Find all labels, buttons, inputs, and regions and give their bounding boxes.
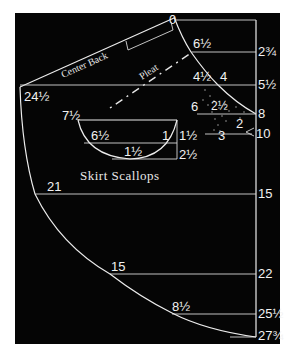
scallop-1-1-2-right: 1½ <box>179 128 197 143</box>
skirt-pattern-diagram: Center Back Pleat Skirt Scallops 0 2¾ 5½… <box>0 0 293 356</box>
point-21: 21 <box>47 179 61 194</box>
measure-25-1-2: 25½ <box>258 306 283 321</box>
scallop-1-1-2-bottom: 1½ <box>124 144 142 159</box>
scallop-6-1-2: 6½ <box>91 128 109 143</box>
point-6-1-2: 6½ <box>193 36 211 51</box>
measure-8: 8 <box>258 106 265 121</box>
point-4-1-2: 4½ <box>193 69 211 84</box>
measure-5-1-2: 5½ <box>258 77 276 92</box>
scallop-7-1-2: 7½ <box>62 108 80 123</box>
skirt-scallops-label: Skirt Scallops <box>80 168 160 183</box>
point-24-1-2: 24½ <box>24 89 49 104</box>
dart-2: 2 <box>236 116 243 131</box>
measure-22: 22 <box>258 266 272 281</box>
point-8-1-2: 8½ <box>172 299 190 314</box>
measure-10: 10 <box>256 126 270 141</box>
point-4: 4 <box>220 69 227 84</box>
dart-3: 3 <box>218 128 225 143</box>
scallop-2-1-2: 2½ <box>179 147 197 162</box>
dart-2-1-2: 2½ <box>211 99 228 113</box>
measure-0: 0 <box>169 12 176 27</box>
scallop-1: 1 <box>162 128 169 143</box>
dart-6: 6 <box>191 99 198 114</box>
measure-15: 15 <box>258 186 272 201</box>
point-15: 15 <box>111 259 125 274</box>
measure-2-3-4: 2¾ <box>258 44 276 59</box>
measure-27-3-4: 27¾ <box>258 328 283 343</box>
